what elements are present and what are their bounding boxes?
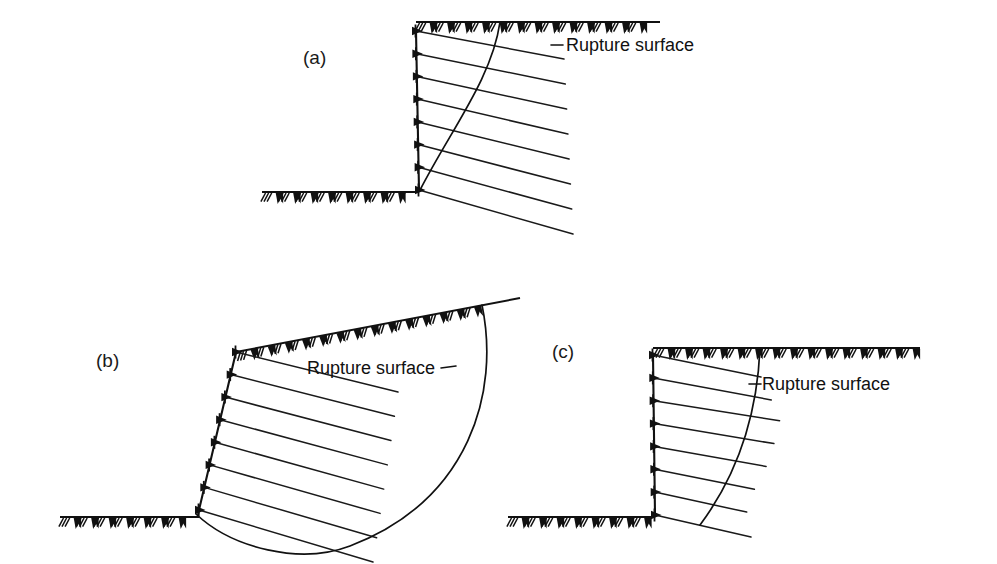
facing-connection-node: [414, 115, 425, 128]
reinforcement-layer: [210, 465, 381, 514]
facing-connection-node: [232, 346, 243, 359]
connection-arrow: [232, 348, 243, 356]
facing-connection-node: [414, 138, 425, 151]
panel-label-a: (a): [303, 47, 326, 68]
reinforcement-layer: [231, 375, 395, 417]
ground-hatch-stroke: [381, 324, 384, 333]
facing-connection-node: [650, 417, 661, 430]
facing-connection-node: [413, 93, 424, 106]
reinforcement-layer-group: [649, 349, 780, 538]
ground-hatch-stroke: [295, 341, 298, 350]
ground-hatch-stroke: [467, 308, 470, 317]
rupture-surface: [420, 22, 500, 190]
reinforcement-layer: [655, 492, 747, 512]
panel-c: (c)Rupture surface: [507, 341, 920, 537]
connection-arrow: [649, 374, 660, 382]
reinforcement-layer: [215, 442, 384, 489]
connection-arrow: [651, 488, 662, 496]
connection-arrow: [650, 465, 661, 473]
ground-hatch-stroke: [312, 337, 315, 346]
facing-connection-node: [651, 486, 662, 499]
connection-arrow: [649, 351, 660, 359]
panel-label-b: (b): [96, 350, 119, 371]
facing-connection-node: [412, 47, 423, 60]
rupture-label-leader: [441, 366, 456, 368]
rupture-surface: [196, 305, 487, 554]
ground-hatch-stroke: [416, 318, 419, 327]
reinforcement-layer: [419, 167, 572, 209]
ground-hatch-stroke: [433, 314, 436, 323]
connection-arrow: [414, 140, 425, 148]
connection-arrow: [651, 511, 662, 519]
facing-connection-node: [650, 394, 661, 407]
reinforcement-layer: [225, 397, 391, 441]
ground-hatch-stroke: [330, 334, 333, 343]
connection-arrow: [412, 50, 423, 58]
rupture-surface-label: Rupture surface: [307, 358, 435, 378]
facing-connection-node: [650, 440, 661, 453]
panel-a: (a)Rupture surface: [261, 22, 694, 234]
rupture-surface-label: Rupture surface: [566, 35, 694, 55]
crest-ground-line: [236, 298, 520, 352]
panel-label-c: (c): [552, 341, 574, 362]
reinforcement-layer: [655, 515, 751, 537]
ground-hatch-stroke: [398, 321, 401, 330]
facing-connection-node: [413, 70, 424, 83]
connection-arrow: [650, 419, 661, 427]
reinforcement-layer: [419, 190, 573, 234]
reinforcement-layer: [418, 145, 570, 184]
connection-arrow: [650, 442, 661, 450]
reinforcement-layer: [416, 31, 564, 59]
ground-hatch-stroke: [364, 328, 367, 337]
reinforcement-layer: [199, 510, 373, 562]
connection-arrow: [650, 397, 661, 405]
connection-arrow: [413, 95, 424, 103]
reinforcement-layer: [654, 424, 774, 444]
reinforcement-layer: [654, 401, 780, 421]
reinforced-soil-wall-failure-modes-figure: (a)Rupture surface(b)Rupture surface(c)R…: [0, 0, 997, 564]
ground-hatch-stroke: [278, 344, 281, 353]
reinforcement-layer-group: [412, 25, 573, 235]
connection-arrow: [414, 118, 425, 126]
panel-b: (b)Rupture surface: [59, 298, 520, 562]
reinforcement-layer: [653, 378, 771, 400]
facing-connection-node: [415, 161, 426, 174]
reinforcement-layer: [654, 446, 766, 466]
facing-connection-node: [650, 463, 661, 476]
ground-hatch-stroke: [450, 311, 453, 320]
facing-connection-node: [649, 371, 660, 384]
reinforcement-layer: [204, 487, 376, 537]
reinforcement-layer: [220, 420, 387, 465]
ground-hatch-stroke: [347, 331, 350, 340]
connection-arrow: [413, 72, 424, 80]
facing-connection-node: [651, 509, 662, 522]
facing-connection-node: [649, 349, 660, 362]
figure-canvas: (a)Rupture surface(b)Rupture surface(c)R…: [0, 0, 997, 564]
ground-hatch-stroke: [261, 347, 264, 356]
reinforcement-layer: [654, 469, 754, 489]
connection-arrow: [415, 163, 426, 171]
rupture-surface-label: Rupture surface: [762, 374, 890, 394]
